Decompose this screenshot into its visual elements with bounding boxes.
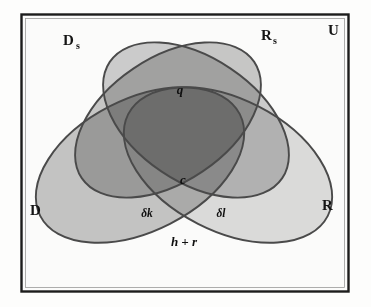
region-label-delta-l: δl: [216, 207, 226, 219]
universe-label: U: [328, 22, 339, 38]
set-label-ds-subscript: s: [76, 40, 80, 51]
region-label-q: q: [177, 82, 184, 97]
set-label-rs-subscript: s: [273, 35, 277, 46]
region-label-delta-k: δk: [141, 207, 153, 219]
set-label-r: R: [322, 197, 333, 213]
venn-diagram-figure: D s R s D R U q c δk δl h + r: [0, 0, 371, 307]
set-label-rs-base: R: [261, 27, 272, 43]
region-label-h-plus-r: h + r: [171, 234, 198, 249]
set-label-d: D: [30, 202, 41, 218]
set-label-ds-base: D: [63, 32, 74, 48]
venn-diagram-canvas: D s R s D R U q c δk δl h + r: [0, 0, 371, 307]
region-label-c: c: [180, 172, 186, 187]
